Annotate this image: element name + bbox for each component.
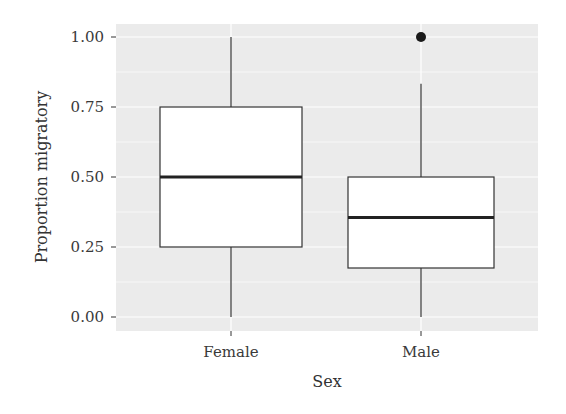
y-tick-label: 0.25 xyxy=(71,238,104,256)
iqr-box xyxy=(348,177,494,268)
x-axis-title: Sex xyxy=(312,372,341,391)
y-axis: 0.000.250.500.751.00 xyxy=(71,28,116,326)
x-axis: FemaleMale xyxy=(203,331,440,361)
y-axis-title: Proportion migratory xyxy=(32,91,51,264)
x-tick-label: Male xyxy=(402,343,440,361)
boxplot-chart: 0.000.250.500.751.00 FemaleMale Sex Prop… xyxy=(0,0,566,414)
x-tick-label: Female xyxy=(203,343,258,361)
y-tick-label: 0.75 xyxy=(71,98,104,116)
outlier-point xyxy=(416,32,426,42)
y-tick-label: 1.00 xyxy=(71,28,104,46)
y-tick-label: 0.00 xyxy=(71,308,104,326)
y-tick-label: 0.50 xyxy=(71,168,104,186)
